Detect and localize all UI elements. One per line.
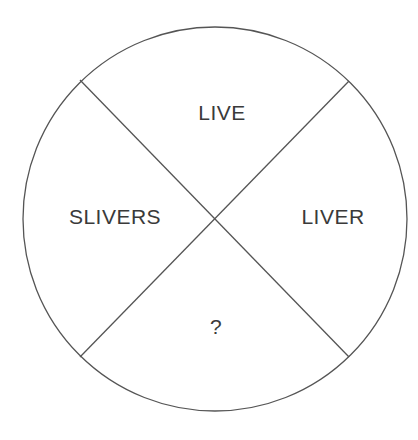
segment-left-label: SLIVERS bbox=[69, 205, 161, 229]
segment-right-label: LIVER bbox=[301, 205, 364, 229]
segment-bottom-label: ? bbox=[210, 315, 222, 339]
segment-top-label: LIVE bbox=[198, 101, 246, 125]
